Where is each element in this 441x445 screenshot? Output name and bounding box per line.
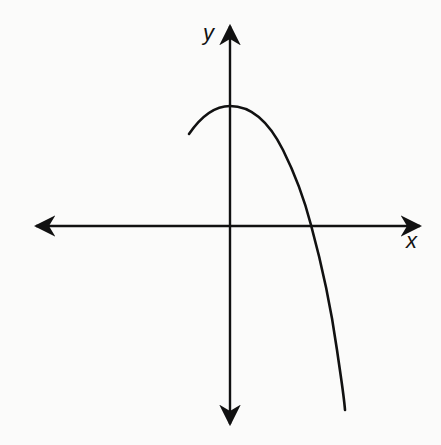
x-axis-label: x (405, 228, 418, 253)
y-axis-label: y (201, 20, 216, 45)
function-curve (189, 106, 345, 410)
graph-figure: y x (0, 0, 441, 445)
graph-svg: y x (0, 0, 441, 445)
